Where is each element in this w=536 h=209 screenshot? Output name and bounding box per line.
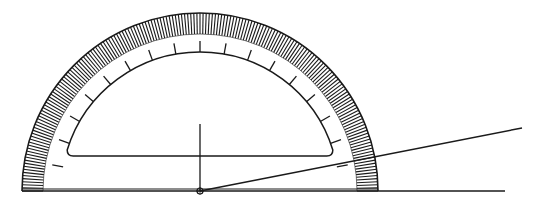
degree-tick (222, 15, 225, 36)
degree-tick (357, 185, 378, 186)
degree-tick (320, 77, 336, 90)
degree-tick (88, 53, 101, 69)
degree-tick (151, 20, 157, 40)
degree-tick (318, 74, 334, 88)
degree-tick (30, 139, 50, 145)
major-tick (149, 50, 153, 60)
degree-tick (154, 19, 159, 39)
degree-tick (188, 13, 189, 34)
degree-tick (324, 81, 341, 94)
degree-tick (349, 136, 369, 142)
major-tick (52, 165, 63, 167)
degree-tick (356, 172, 377, 174)
degree-tick (249, 22, 255, 42)
degree-tick (356, 169, 377, 172)
degree-tick (357, 182, 378, 183)
degree-tick (357, 179, 378, 180)
degree-tick (24, 166, 45, 169)
degree-tick (66, 74, 82, 88)
major-tick (59, 140, 69, 144)
major-tick (104, 76, 111, 84)
major-tick (248, 50, 252, 60)
degree-tick (22, 182, 43, 183)
degree-tick (241, 19, 246, 39)
major-tick (331, 140, 341, 144)
degree-tick (90, 51, 103, 68)
major-tick (270, 61, 276, 71)
degree-tick (317, 72, 333, 86)
degree-tick (297, 51, 310, 68)
degree-tick (60, 81, 77, 94)
degree-tick (81, 59, 95, 75)
degree-tick (299, 53, 312, 69)
major-tick (70, 116, 80, 122)
degree-tick (355, 166, 376, 169)
degree-tick (214, 14, 216, 35)
degree-tick (309, 63, 324, 78)
degree-tick (62, 79, 78, 92)
angle-ray (200, 128, 522, 191)
degree-tick (83, 57, 97, 73)
degree-tick (184, 14, 186, 35)
degree-tick (352, 145, 372, 150)
degree-tick (22, 185, 43, 186)
degree-tick (72, 67, 87, 82)
degree-tick (64, 77, 80, 90)
major-tick (85, 95, 93, 102)
degree-tick (70, 70, 85, 84)
degree-tick (86, 55, 99, 71)
degree-tick (145, 22, 151, 42)
degree-tick (191, 13, 192, 34)
degree-tick (219, 14, 222, 35)
degree-tick (246, 21, 252, 41)
degree-tick (208, 13, 209, 34)
degree-tick (351, 142, 371, 148)
degree-tick (181, 14, 183, 35)
degree-tick (68, 72, 84, 86)
major-tick (125, 61, 131, 71)
major-tick (174, 43, 176, 54)
degree-tick (216, 14, 218, 35)
protractor-figure (0, 0, 536, 209)
degree-tick (322, 79, 338, 92)
degree-tick (307, 61, 321, 76)
degree-tick (23, 172, 44, 174)
major-tick (337, 165, 348, 167)
degree-tick (211, 13, 212, 34)
degree-tick (23, 169, 44, 172)
degree-tick (175, 15, 178, 36)
degree-tick (31, 136, 51, 142)
degree-tick (74, 65, 89, 80)
degree-tick (205, 13, 206, 34)
degree-tick (79, 61, 93, 76)
major-tick (320, 116, 330, 122)
degree-tick (313, 67, 328, 82)
major-tick (306, 95, 314, 102)
degree-tick (178, 14, 181, 35)
protractor-diagram (0, 0, 536, 209)
degree-tick (148, 21, 154, 41)
degree-tick (243, 20, 249, 40)
degree-tick (305, 59, 319, 75)
degree-tick (28, 145, 48, 150)
degree-tick (315, 70, 330, 84)
degree-tick (303, 57, 317, 73)
degree-tick (350, 139, 370, 145)
degree-tick (29, 142, 49, 148)
degree-tick (194, 13, 195, 34)
major-tick (224, 43, 226, 54)
major-tick (289, 76, 296, 84)
degree-tick (311, 65, 326, 80)
degree-tick (22, 179, 43, 180)
degree-tick (301, 55, 314, 71)
degree-tick (76, 63, 91, 78)
degree-tick (23, 175, 44, 177)
degree-tick (356, 175, 377, 177)
